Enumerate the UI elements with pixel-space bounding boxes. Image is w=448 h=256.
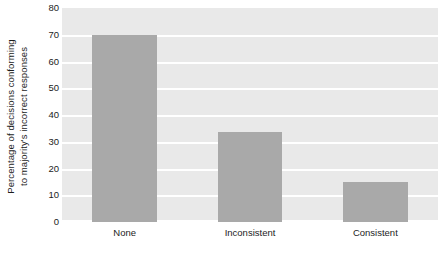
y-tick-label: 10	[34, 190, 59, 200]
x-tick-label-none: None	[113, 226, 136, 240]
y-tick-label: 70	[34, 30, 59, 40]
bar-inconsistent	[218, 132, 283, 222]
y-tick-label: 20	[34, 164, 59, 174]
y-axis-tick-labels: 0 10 20 30 40 50 60 70 80	[34, 8, 59, 222]
y-tick-label: 60	[34, 57, 59, 67]
plot-area	[62, 8, 438, 222]
y-tick-label: 30	[34, 137, 59, 147]
y-tick-label: 40	[34, 110, 59, 120]
bar-chart: Percentage of decisions conforming to ma…	[0, 0, 448, 256]
y-tick-label: 80	[34, 3, 59, 13]
bars-layer	[62, 8, 438, 222]
y-axis-title: Percentage of decisions conforming to ma…	[0, 0, 34, 232]
y-tick-label: 50	[34, 83, 59, 93]
y-tick-label: 0	[34, 217, 59, 227]
x-tick-label-consistent: Consistent	[353, 226, 398, 240]
x-axis-tick-labels: None Inconsistent Consistent	[62, 226, 438, 246]
y-axis-title-line-1: Percentage of decisions conforming	[5, 39, 18, 193]
x-tick-label-inconsistent: Inconsistent	[225, 226, 276, 240]
bar-none	[92, 35, 157, 222]
bar-consistent	[343, 182, 408, 222]
y-axis-title-line-2: to majority's incorrect responses	[17, 39, 30, 193]
